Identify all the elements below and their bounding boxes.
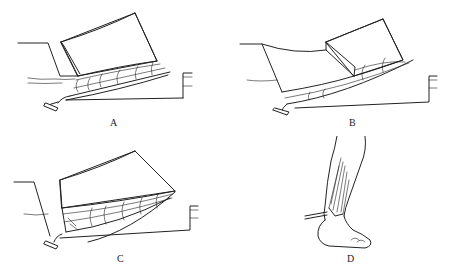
panel-d-illustration [225, 136, 451, 272]
panel-label-d: D [347, 253, 354, 264]
panel-d: D [225, 136, 451, 272]
panel-c-illustration [0, 136, 225, 272]
panel-b: B [225, 0, 451, 136]
panel-a: A [0, 0, 225, 136]
panel-b-illustration [225, 0, 451, 136]
panel-c: C [0, 136, 225, 272]
panel-label-c: C [117, 253, 124, 264]
panel-a-illustration [0, 0, 225, 136]
panel-label-a: A [110, 117, 117, 128]
panel-label-b: B [349, 117, 356, 128]
